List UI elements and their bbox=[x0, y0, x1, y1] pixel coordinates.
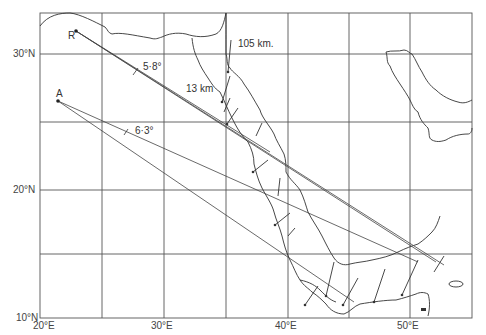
angle-label-R: 5·8° bbox=[143, 61, 161, 72]
lat-label-20n: 20°N bbox=[13, 184, 35, 195]
point-label-R: R bbox=[68, 30, 75, 41]
point-label-A: A bbox=[56, 88, 63, 99]
coastlines bbox=[40, 13, 472, 316]
ray-lines-A bbox=[58, 101, 418, 302]
distance-label-gulf: 13 km bbox=[186, 83, 213, 94]
somali-coast bbox=[300, 280, 336, 302]
lon-label-30e: 30°E bbox=[151, 320, 173, 331]
ray-lines-R bbox=[76, 31, 444, 265]
socotra-island bbox=[449, 281, 463, 287]
lon-label-20e: 20°E bbox=[33, 320, 55, 331]
persian-gulf-east-coast bbox=[386, 50, 472, 103]
red-sea-east-coast bbox=[226, 13, 440, 265]
angle-label-A: 6·3° bbox=[135, 125, 153, 136]
point-A bbox=[56, 99, 60, 103]
distance-label-north: 105 km. bbox=[238, 38, 274, 49]
lat-label-30n: 30°N bbox=[13, 48, 35, 59]
persian-gulf-west-coast bbox=[386, 52, 472, 142]
lon-label-50e: 50°E bbox=[397, 320, 419, 331]
lon-label-40e: 40°E bbox=[275, 320, 297, 331]
map-canvas bbox=[0, 0, 486, 335]
displacement-arrows bbox=[222, 40, 444, 305]
arrow-heads bbox=[221, 71, 426, 311]
graticule bbox=[40, 13, 472, 318]
